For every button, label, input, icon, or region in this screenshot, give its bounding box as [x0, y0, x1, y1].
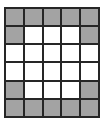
grid-cell-r6-c1: [6, 100, 23, 116]
grid-pattern: [4, 7, 100, 118]
grid-cell-r6-c5: [81, 100, 98, 116]
grid-cell-r5-c3: [44, 82, 61, 98]
grid-cell-r2-c2: [25, 27, 42, 43]
grid-cell-r6-c4: [62, 100, 79, 116]
grid-cell-r4-c4: [62, 63, 79, 79]
grid-cell-r1-c3: [44, 9, 61, 25]
grid-cell-r1-c5: [81, 9, 98, 25]
grid-cell-r6-c3: [44, 100, 61, 116]
grid-cell-r4-c2: [25, 63, 42, 79]
grid-cell-r1-c1: [6, 9, 23, 25]
grid-cell-r2-c3: [44, 27, 61, 43]
grid-cell-r6-c2: [25, 100, 42, 116]
grid-cell-r3-c2: [25, 45, 42, 61]
grid-cell-r2-c5: [81, 27, 98, 43]
grid-cell-r3-c1: [6, 45, 23, 61]
grid-cell-r2-c4: [62, 27, 79, 43]
grid-cell-r4-c1: [6, 63, 23, 79]
grid-cell-r5-c5: [81, 82, 98, 98]
grid-cell-r3-c5: [81, 45, 98, 61]
grid-cell-r4-c3: [44, 63, 61, 79]
grid-cell-r5-c1: [6, 82, 23, 98]
grid-cell-r3-c3: [44, 45, 61, 61]
grid-cell-r1-c2: [25, 9, 42, 25]
grid-cell-r5-c2: [25, 82, 42, 98]
grid-cell-r4-c5: [81, 63, 98, 79]
grid-cell-r2-c1: [6, 27, 23, 43]
grid-cell-r1-c4: [62, 9, 79, 25]
grid-cell-r3-c4: [62, 45, 79, 61]
grid-cell-r5-c4: [62, 82, 79, 98]
